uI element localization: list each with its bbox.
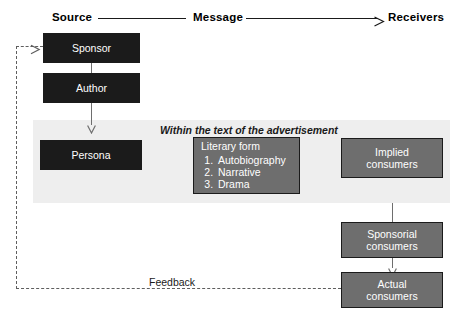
node-persona-label: Persona xyxy=(71,149,110,161)
node-implied-consumers-line2: consumers xyxy=(366,158,417,170)
node-persona: Persona xyxy=(40,140,142,170)
header-connector-source-message xyxy=(98,18,186,19)
arrow-down-icon xyxy=(87,120,96,129)
list-item: Narrative xyxy=(216,166,286,178)
arrow-down-icon xyxy=(388,263,397,272)
node-author-label: Author xyxy=(76,82,107,94)
connector-sponsor-to-author xyxy=(91,63,92,73)
header-label-source: Source xyxy=(52,11,92,23)
node-actual-consumers-line2: consumers xyxy=(366,290,417,302)
node-literary-form: Literary form Autobiography Narrative Dr… xyxy=(193,137,300,194)
node-author: Author xyxy=(43,73,140,103)
arrow-right-icon xyxy=(30,41,41,52)
connector-implied-to-sponsorial xyxy=(392,203,393,222)
list-item: Autobiography xyxy=(216,154,286,166)
literary-form-list: Autobiography Narrative Drama xyxy=(201,154,286,191)
header-label-receivers: Receivers xyxy=(388,11,444,23)
feedback-line-bottom xyxy=(16,288,341,289)
feedback-label: Feedback xyxy=(145,276,199,288)
list-item: Drama xyxy=(216,178,286,190)
node-sponsor-label: Sponsor xyxy=(72,42,111,54)
node-implied-consumers: Implied consumers xyxy=(341,138,443,178)
node-sponsorial-consumers-line1: Sponsorial xyxy=(367,228,417,240)
feedback-line-left xyxy=(16,46,17,289)
header-connector-message-receivers xyxy=(246,18,378,19)
node-actual-consumers-line1: Actual xyxy=(377,278,406,290)
node-sponsor: Sponsor xyxy=(43,33,140,63)
node-actual-consumers: Actual consumers xyxy=(341,272,443,308)
band-caption: Within the text of the advertisement xyxy=(160,124,338,136)
node-sponsorial-consumers-line2: consumers xyxy=(366,240,417,252)
node-sponsorial-consumers: Sponsorial consumers xyxy=(341,222,443,258)
node-literary-form-title: Literary form xyxy=(201,140,260,152)
node-implied-consumers-line1: Implied xyxy=(375,146,409,158)
diagram-canvas: Source Message Receivers Within the text… xyxy=(0,0,458,324)
arrow-right-icon xyxy=(374,13,385,24)
header-label-message: Message xyxy=(193,11,243,23)
